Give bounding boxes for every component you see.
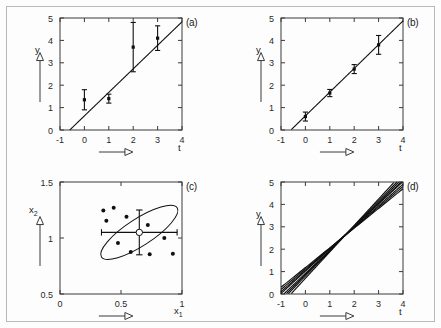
y-tick-label: 3: [269, 222, 274, 232]
plot-frame: [60, 18, 182, 130]
x-tick-label: 2: [352, 135, 357, 145]
y-axis-arrow-head: [37, 217, 44, 225]
figure-canvas: -101234012345 (a) y t -101234012345 (b) …: [0, 0, 441, 328]
panel-a-data-point: [83, 98, 86, 101]
y-tick-label: 5: [269, 178, 274, 188]
panel-c-data-point: [104, 219, 108, 223]
panel-b-xlabel: t: [399, 142, 402, 153]
panel-c-label: (c): [186, 181, 197, 192]
y-tick-label: 2: [48, 81, 53, 91]
x-tick-label: -1: [277, 299, 285, 309]
panel-c-data-point: [116, 241, 120, 245]
x-tick-label: 0: [303, 135, 308, 145]
x-tick-label: 3: [155, 135, 160, 145]
x-tick-label: 0: [57, 299, 62, 309]
panel-b-data-point: [353, 67, 356, 70]
y-tick-label: 1: [48, 103, 53, 113]
panel-b-data-point: [328, 91, 331, 94]
x-axis-arrow-head: [125, 313, 133, 320]
x-axis-arrow-head: [125, 149, 133, 156]
panel-b-label: (b): [407, 17, 418, 28]
y-tick-label: 0: [48, 126, 53, 136]
y-tick-label: 4: [269, 200, 274, 210]
x-tick-label: 3: [376, 299, 381, 309]
panel-a-data-point: [132, 46, 135, 49]
x-axis-arrow-head: [346, 313, 354, 320]
y-tick-label: 3: [48, 58, 53, 68]
panel-b-data-point: [304, 115, 307, 118]
panel-c-data-point: [171, 252, 175, 256]
y-tick-label: 5: [48, 14, 53, 24]
panel-c-data-point: [162, 236, 166, 240]
panel-c-ylabel: x2: [29, 204, 38, 217]
panel-c-center-marker: [136, 229, 142, 235]
y-tick-label: 3: [269, 58, 274, 68]
panel-d-ylabel: y: [256, 208, 261, 219]
panel-c-data-point: [129, 250, 133, 254]
x-tick-label: -1: [277, 135, 285, 145]
panel-b-data-point: [377, 43, 380, 46]
panel-c-data-point: [112, 206, 116, 210]
panel-a-fit-line: [70, 22, 182, 130]
panel-c: 00.510.511.5 (c) x2 x1: [0, 164, 221, 328]
y-tick-label: 2: [269, 245, 274, 255]
y-tick-label: 1: [269, 103, 274, 113]
y-tick-label: 1: [48, 234, 53, 244]
x-tick-label: -1: [56, 135, 64, 145]
x-axis-arrow-head: [346, 149, 354, 156]
y-tick-label: 1: [269, 267, 274, 277]
x-tick-label: 0: [303, 299, 308, 309]
y-tick-label: 2: [269, 81, 274, 91]
x-tick-label: 0.5: [115, 299, 128, 309]
panel-a-label: (a): [186, 17, 197, 28]
panel-b-ylabel: y: [256, 44, 261, 55]
x-tick-label: 1: [106, 135, 111, 145]
y-tick-label: 5: [269, 14, 274, 24]
panel-c-data-point: [148, 252, 152, 256]
panel-d-xlabel: t: [399, 306, 402, 317]
x-tick-label: 3: [376, 135, 381, 145]
panel-d-label: (d): [407, 181, 418, 192]
panel-d: -101234012345 (d) y t: [221, 164, 441, 328]
panel-a: -101234012345 (a) y t: [0, 0, 221, 164]
panel-c-data-point: [146, 223, 150, 227]
x-tick-label: 1: [327, 299, 332, 309]
y-tick-label: 0: [269, 126, 274, 136]
panel-a-ylabel: y: [35, 44, 40, 55]
y-tick-label: 1.5: [40, 178, 53, 188]
x-tick-label: 0: [82, 135, 87, 145]
panel-c-data-point: [101, 209, 105, 213]
y-tick-label: 4: [48, 36, 53, 46]
x-tick-label: 1: [327, 135, 332, 145]
panel-c-xlabel: x1: [174, 305, 183, 318]
x-tick-label: 2: [352, 299, 357, 309]
panel-a-data-point: [156, 37, 159, 40]
y-tick-label: 4: [269, 36, 274, 46]
plot-frame: [281, 18, 403, 130]
y-tick-label: 0: [269, 290, 274, 300]
y-tick-label: 0.5: [40, 290, 53, 300]
panel-a-xlabel: t: [178, 142, 181, 153]
panel-b: -101234012345 (b) y t: [221, 0, 441, 164]
panel-d-line-8: [286, 182, 398, 293]
panel-a-data-point: [107, 97, 110, 100]
panel-b-fit-line: [291, 21, 403, 130]
x-tick-label: 2: [131, 135, 136, 145]
panel-c-data-point: [124, 215, 128, 219]
